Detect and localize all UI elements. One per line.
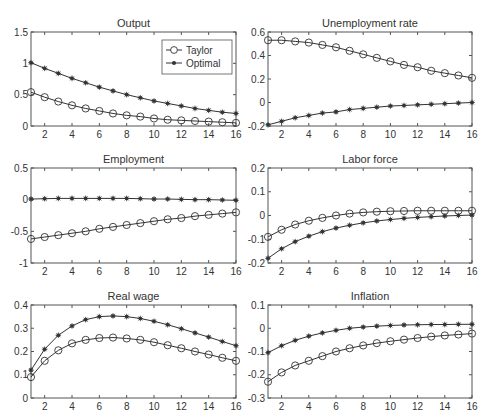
- x-tick-label: 6: [333, 129, 339, 140]
- y-tick-label: -0.1: [248, 234, 266, 245]
- x-tick-label: 16: [230, 129, 242, 140]
- star-marker-icon: [347, 222, 353, 228]
- x-tick-label: 6: [97, 401, 103, 412]
- star-marker-icon: [415, 102, 421, 108]
- star-marker-icon: [401, 216, 407, 222]
- y-tick-label: -1: [19, 258, 28, 269]
- star-marker-icon: [124, 92, 130, 98]
- star-marker-icon: [469, 212, 475, 218]
- star-marker-icon: [374, 323, 380, 329]
- x-tick-label: 2: [279, 401, 285, 412]
- y-tick-label: 0.1: [251, 300, 265, 311]
- legend: TaylorOptimal: [162, 40, 232, 74]
- star-marker-icon: [233, 343, 239, 349]
- panel-title: Unemployment rate: [322, 17, 418, 29]
- star-marker-icon: [110, 88, 116, 94]
- x-tick-label: 2: [279, 129, 285, 140]
- x-tick-label: 14: [439, 129, 451, 140]
- star-marker-icon: [374, 104, 380, 110]
- series-optimal: [31, 198, 236, 200]
- legend-star-icon: [172, 61, 176, 65]
- star-marker-icon: [179, 326, 185, 332]
- x-tick-label: 12: [412, 401, 424, 412]
- panel-title: Output: [117, 17, 150, 29]
- x-tick-label: 6: [333, 401, 339, 412]
- star-marker-icon: [456, 213, 462, 219]
- star-marker-icon: [151, 196, 157, 202]
- star-marker-icon: [428, 214, 434, 220]
- star-marker-icon: [428, 322, 434, 328]
- star-marker-icon: [442, 101, 448, 107]
- axes-box: [268, 305, 472, 398]
- star-marker-icon: [42, 66, 48, 72]
- y-tick-label: 0: [22, 194, 28, 205]
- star-marker-icon: [28, 60, 34, 66]
- legend-label: Taylor: [186, 45, 213, 56]
- y-tick-label: 0.5: [14, 163, 28, 174]
- star-marker-icon: [110, 313, 116, 319]
- star-marker-icon: [192, 197, 198, 203]
- y-tick-label: 0.1: [14, 369, 28, 380]
- y-tick-label: 0.2: [251, 74, 265, 85]
- x-tick-label: 4: [306, 129, 312, 140]
- figure-grid: Output24681012141600.511.5TaylorOptimalU…: [0, 0, 490, 418]
- star-marker-icon: [97, 84, 103, 90]
- star-marker-icon: [415, 322, 421, 328]
- star-marker-icon: [388, 217, 394, 223]
- series-taylor: [268, 334, 472, 382]
- x-tick-label: 14: [203, 401, 215, 412]
- series-optimal: [31, 316, 236, 370]
- panel-inflation: Inflation246810121416-0.3-0.2-0.100.1: [248, 290, 478, 412]
- star-marker-icon: [69, 323, 75, 329]
- x-tick-label: 12: [412, 266, 424, 277]
- star-marker-icon: [233, 198, 239, 204]
- x-tick-label: 14: [203, 266, 215, 277]
- x-tick-label: 2: [279, 266, 285, 277]
- x-tick-label: 4: [69, 129, 75, 140]
- y-tick-label: -0.3: [248, 393, 266, 404]
- y-tick-label: 0.4: [14, 300, 28, 311]
- star-marker-icon: [415, 215, 421, 221]
- legend-label: Optimal: [186, 58, 220, 69]
- star-marker-icon: [220, 197, 226, 203]
- star-marker-icon: [151, 98, 157, 104]
- star-marker-icon: [292, 239, 298, 245]
- star-marker-icon: [428, 101, 434, 107]
- star-marker-icon: [360, 324, 366, 330]
- y-tick-label: 0: [259, 97, 265, 108]
- x-tick-label: 10: [148, 401, 160, 412]
- x-tick-label: 8: [360, 129, 366, 140]
- x-tick-label: 2: [42, 266, 48, 277]
- star-marker-icon: [388, 323, 394, 329]
- star-marker-icon: [279, 119, 285, 125]
- panel-labor-force: Labor force246810121416-0.2-0.100.10.2: [248, 153, 478, 277]
- x-tick-label: 16: [466, 266, 478, 277]
- star-marker-icon: [265, 255, 271, 261]
- star-marker-icon: [42, 346, 48, 352]
- star-marker-icon: [97, 196, 103, 202]
- star-marker-icon: [138, 196, 144, 202]
- y-tick-label: 0.2: [251, 163, 265, 174]
- x-tick-label: 8: [124, 266, 130, 277]
- series-optimal: [268, 103, 472, 125]
- series-taylor: [31, 338, 236, 378]
- star-marker-icon: [374, 218, 380, 224]
- star-marker-icon: [83, 80, 89, 86]
- x-tick-label: 8: [124, 401, 130, 412]
- star-marker-icon: [306, 113, 312, 119]
- panel-title: Inflation: [351, 290, 390, 302]
- panel-employment: Employment246810121416-1-0.500.5: [11, 153, 242, 277]
- x-tick-label: 8: [360, 401, 366, 412]
- star-marker-icon: [401, 103, 407, 109]
- star-marker-icon: [69, 76, 75, 82]
- series-optimal: [268, 324, 472, 352]
- star-marker-icon: [401, 322, 407, 328]
- x-tick-label: 2: [42, 401, 48, 412]
- y-tick-label: 0.6: [251, 27, 265, 38]
- star-marker-icon: [124, 314, 130, 320]
- x-tick-label: 10: [385, 129, 397, 140]
- star-marker-icon: [279, 343, 285, 349]
- axes-box: [268, 168, 472, 263]
- star-marker-icon: [83, 196, 89, 202]
- star-marker-icon: [279, 246, 285, 252]
